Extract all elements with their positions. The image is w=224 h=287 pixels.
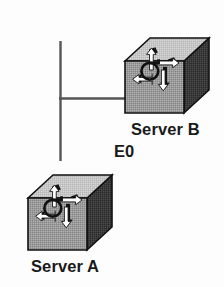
node-server-a[interactable] bbox=[28, 175, 112, 250]
network-diagram-canvas bbox=[0, 0, 224, 287]
node-label-server-a: Server A bbox=[31, 257, 99, 276]
node-server-b[interactable] bbox=[125, 38, 209, 113]
node-label-server-b: Server B bbox=[131, 120, 200, 139]
interface-label-e0: E0 bbox=[114, 142, 134, 161]
